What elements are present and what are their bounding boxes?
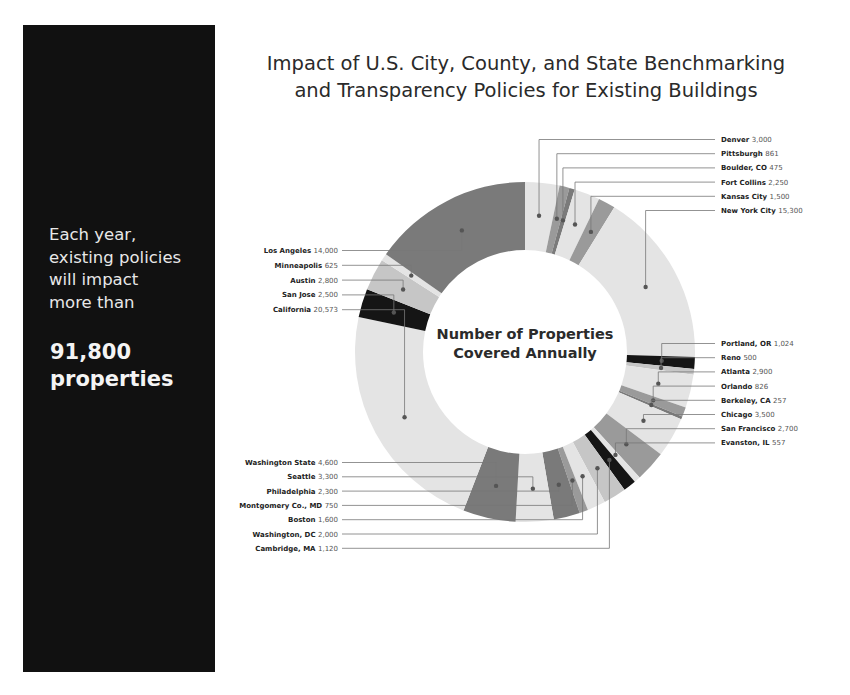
segment-label: Orlando 826 [721, 383, 769, 391]
segment-label: Kansas City 1,500 [721, 193, 790, 201]
segment-label: Minneapolis 625 [275, 262, 338, 270]
segment-label: Washington State 4,600 [245, 459, 338, 467]
leader-dot [402, 415, 406, 419]
leader-dot [460, 228, 464, 232]
segment-label: Chicago 3,500 [721, 411, 775, 419]
leader-dot [531, 487, 535, 491]
segment-label: San Francisco 2,700 [721, 425, 798, 433]
leader-dot [555, 217, 559, 221]
donut-center-label: Number of Properties Covered Annually [420, 325, 630, 363]
segment-label: Boston 1,600 [288, 516, 338, 524]
leader-dot [401, 287, 405, 291]
center-label-line1: Number of Properties [420, 325, 630, 344]
segment-label: Seattle 3,300 [287, 473, 338, 481]
leader-dot [660, 359, 664, 363]
leader-dot [595, 466, 599, 470]
center-label-line2: Covered Annually [420, 344, 630, 363]
segment-label: Evanston, IL 557 [721, 439, 785, 447]
leader-dot [589, 230, 593, 234]
segment-label: Philadelphia 2,300 [267, 488, 338, 496]
segment-label: Montgomery Co., MD 750 [239, 502, 338, 510]
leader-dot [649, 403, 653, 407]
segment-label: Boulder, CO 475 [721, 164, 783, 172]
leader-dot [607, 458, 611, 462]
segment-label: Atlanta 2,900 [721, 368, 772, 376]
segment-label: San Jose 2,500 [282, 291, 338, 299]
leader-dot [659, 366, 663, 370]
leader-dot [643, 285, 647, 289]
leader-dot [641, 419, 645, 423]
leader-dot [557, 483, 561, 487]
segment-label: Reno 500 [721, 354, 757, 362]
segment-label: Fort Collins 2,250 [721, 179, 788, 187]
segment-label: Cambridge, MA 1,120 [255, 545, 338, 553]
leader-dot [392, 310, 396, 314]
segment-label: Pittsburgh 861 [721, 150, 779, 158]
leader-dot [656, 381, 660, 385]
leader-dot [580, 474, 584, 478]
leader-dot [537, 214, 541, 218]
leader-dot [409, 273, 413, 277]
segment-label: Washington, DC 2,000 [253, 531, 338, 539]
leader-dot [570, 478, 574, 482]
segment-label: Denver 3,000 [721, 136, 772, 144]
segment-label: New York City 15,300 [721, 207, 803, 215]
leader-dot [494, 484, 498, 488]
segment-label: California 20,573 [273, 306, 338, 314]
segment-label: Portland, OR 1,024 [721, 340, 794, 348]
leader-dot [613, 453, 617, 457]
segment-label: Berkeley, CA 257 [721, 397, 786, 405]
leader-dot [561, 218, 565, 222]
segment-label: Austin 2,800 [290, 277, 338, 285]
segment-label: Los Angeles 14,000 [264, 247, 338, 255]
leader-dot [573, 222, 577, 226]
